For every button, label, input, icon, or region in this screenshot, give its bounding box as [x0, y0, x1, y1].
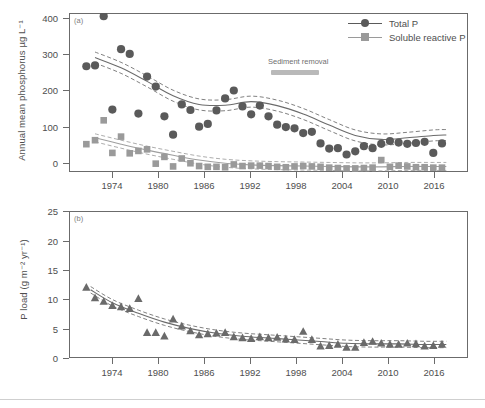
data-point	[247, 110, 255, 118]
data-point	[395, 138, 403, 146]
data-point	[213, 164, 220, 171]
data-point	[430, 164, 437, 171]
footer-divider	[0, 399, 485, 400]
data-point	[247, 334, 255, 342]
data-point	[160, 332, 168, 340]
panel-b-ytick-label-15: 15	[28, 265, 58, 276]
data-point	[82, 283, 90, 291]
data-point	[204, 329, 212, 337]
data-point	[317, 164, 324, 171]
data-point	[368, 144, 376, 152]
panel-a-ytick-label-300: 300	[28, 49, 58, 60]
data-point	[403, 140, 411, 148]
data-point	[377, 140, 385, 148]
panel-a-legend: Total P Soluble reactive P	[348, 16, 466, 44]
data-point	[100, 297, 108, 305]
sediment-removal-label: Sediment removal	[268, 57, 328, 66]
data-point	[352, 165, 359, 172]
data-point	[412, 339, 420, 347]
panel-a-ytick-label-100: 100	[28, 122, 58, 133]
data-point	[420, 342, 428, 350]
panel-b-xtick-mark-2004	[342, 358, 343, 364]
panel-a-xtick-mark-2004	[342, 172, 343, 178]
data-point	[325, 144, 333, 152]
data-point	[239, 163, 246, 170]
data-point	[439, 164, 446, 171]
panel-b-xtick-mark-2016	[434, 358, 435, 364]
data-point	[143, 73, 151, 81]
data-point	[169, 315, 177, 323]
panel-b-ytick-label-25: 25	[28, 206, 58, 217]
data-point	[118, 133, 125, 140]
data-point	[273, 333, 281, 341]
panel-a-xtick-mark-1998	[296, 172, 297, 178]
data-point	[316, 139, 324, 147]
data-point	[309, 163, 316, 170]
data-point	[421, 138, 429, 146]
data-point	[108, 301, 116, 309]
panel-b-xtick-mark-1998	[296, 358, 297, 364]
data-point	[83, 141, 90, 148]
data-point	[221, 94, 229, 102]
data-point	[412, 139, 420, 147]
panel-b-ytick-label-20: 20	[28, 236, 58, 247]
sediment-removal-bar	[271, 70, 319, 75]
panel-b-ytick-label-5: 5	[28, 324, 58, 335]
data-point	[92, 137, 99, 144]
panel-b-xtick-label-1992: 1992	[230, 367, 270, 378]
panel-b-data-layer	[69, 211, 468, 358]
data-point	[274, 164, 281, 171]
data-point	[316, 342, 324, 350]
legend-item-total-p[interactable]: Total P	[348, 16, 466, 30]
data-point	[404, 163, 411, 170]
data-point	[109, 150, 116, 157]
data-point	[195, 123, 203, 131]
data-point	[230, 86, 238, 94]
figure-container: Annual mean phosphorus µg L⁻¹ (a) 0 100 …	[0, 0, 485, 408]
data-point	[413, 164, 420, 171]
data-point	[438, 139, 446, 147]
panel-b-ytick-mark-0	[63, 358, 69, 359]
data-point	[403, 339, 411, 347]
data-point	[152, 328, 160, 336]
panel-a: Annual mean phosphorus µg L⁻¹ (a) 0 100 …	[0, 0, 485, 196]
data-point	[429, 149, 437, 157]
legend-label-total-p: Total P	[389, 18, 418, 29]
data-point	[326, 164, 333, 171]
data-point	[334, 144, 342, 152]
data-point	[117, 302, 125, 310]
data-point	[351, 147, 359, 155]
panel-b-xtick-label-1998: 1998	[276, 367, 316, 378]
data-point	[248, 162, 255, 169]
panel-a-xtick-mark-1986	[204, 172, 205, 178]
panel-b-xtick-label-2016: 2016	[414, 367, 454, 378]
data-point	[438, 340, 446, 348]
data-point	[178, 155, 185, 162]
panel-a-xtick-mark-2010	[388, 172, 389, 178]
confidence-band-fitted_curve-lower	[91, 287, 447, 342]
data-point	[204, 164, 211, 171]
panel-b-xtick-mark-1986	[204, 358, 205, 364]
data-point	[265, 163, 272, 170]
data-point	[290, 124, 298, 132]
data-point	[343, 165, 350, 172]
data-point	[204, 120, 212, 128]
data-point	[222, 164, 229, 171]
legend-key-soluble-reactive-p	[348, 31, 382, 43]
data-point	[126, 150, 133, 157]
data-point	[212, 106, 220, 114]
data-point	[187, 160, 194, 167]
data-point	[282, 123, 290, 131]
data-point	[134, 294, 142, 302]
panel-a-y-axis-label: Annual mean phosphorus µg L⁻¹	[16, 11, 27, 171]
data-point	[134, 109, 142, 117]
data-point	[283, 164, 290, 171]
data-point	[170, 163, 177, 170]
panel-a-ytick-label-200: 200	[28, 85, 58, 96]
data-point	[117, 45, 125, 53]
data-point	[386, 137, 394, 145]
data-point	[108, 105, 116, 113]
legend-item-soluble-reactive-p[interactable]: Soluble reactive P	[348, 30, 466, 44]
panel-a-xtick-mark-1992	[250, 172, 251, 178]
data-point	[360, 142, 368, 150]
